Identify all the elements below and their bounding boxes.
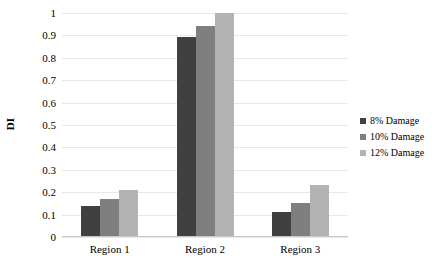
y-axis-tick-label: 0.2 xyxy=(42,187,56,198)
y-axis-tick-label: 0.4 xyxy=(42,142,56,153)
legend-label: 12% Damage xyxy=(370,148,424,158)
y-axis-tick-label: 0.6 xyxy=(42,97,56,108)
bar-group xyxy=(177,13,234,237)
bar[interactable] xyxy=(177,37,196,237)
bar-group xyxy=(272,13,329,237)
y-axis-title: DI xyxy=(4,114,16,134)
y-axis-tick-label: 0.3 xyxy=(42,164,56,175)
bar-group xyxy=(81,13,138,237)
plot-area xyxy=(62,13,348,237)
x-axis-tick-label: Region 2 xyxy=(157,243,252,255)
bars-layer xyxy=(62,13,348,237)
legend-item[interactable]: 8% Damage xyxy=(360,113,440,129)
bar[interactable] xyxy=(272,212,291,237)
legend-swatch-icon xyxy=(360,118,366,124)
gridline xyxy=(62,237,348,238)
y-axis-tick-label: 0.9 xyxy=(42,30,56,41)
legend-item[interactable]: 10% Damage xyxy=(360,129,440,145)
x-axis-tick-label: Region 1 xyxy=(62,243,157,255)
y-axis-tick-label: 0.8 xyxy=(42,52,56,63)
bar[interactable] xyxy=(310,185,329,237)
y-axis-tick-label: 0.7 xyxy=(42,75,56,86)
bar[interactable] xyxy=(196,26,215,237)
y-axis-tick-label: 0.1 xyxy=(42,209,56,220)
y-axis-tick-label: 1 xyxy=(51,8,57,19)
bar[interactable] xyxy=(100,199,119,237)
legend-swatch-icon xyxy=(360,134,366,140)
bar-chart: DI 00.10.20.30.40.50.60.70.80.91 Region … xyxy=(0,0,440,271)
bar[interactable] xyxy=(215,13,234,237)
bar[interactable] xyxy=(291,203,310,237)
legend-label: 8% Damage xyxy=(370,116,419,126)
bar[interactable] xyxy=(119,190,138,237)
legend: 8% Damage10% Damage12% Damage xyxy=(360,113,440,161)
y-axis-tick-label: 0 xyxy=(51,232,57,243)
y-axis-tick-labels: 00.10.20.30.40.50.60.70.80.91 xyxy=(18,0,62,271)
y-axis-tick-label: 0.5 xyxy=(42,120,56,131)
bar[interactable] xyxy=(81,206,100,237)
x-axis-tick-label: Region 3 xyxy=(253,243,348,255)
legend-item[interactable]: 12% Damage xyxy=(360,145,440,161)
x-axis-line xyxy=(62,236,348,237)
legend-label: 10% Damage xyxy=(370,132,424,142)
x-axis-tick-labels: Region 1Region 2Region 3 xyxy=(62,243,348,261)
legend-swatch-icon xyxy=(360,150,366,156)
